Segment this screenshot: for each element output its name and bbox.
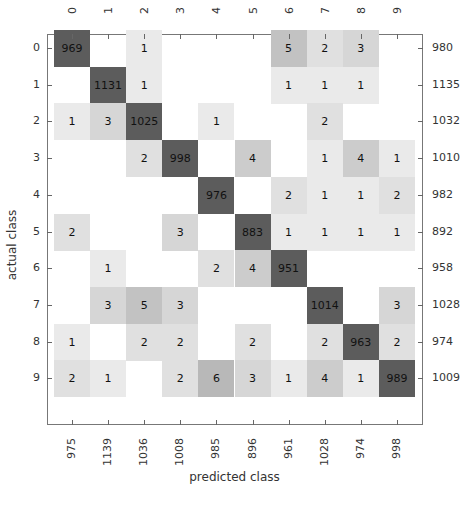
x-axis-title: predicted class [0,470,469,484]
x-tick-label-bottom: 975 [65,438,78,459]
x-tick-label-bottom: 1036 [137,438,150,466]
y-tick-label-right: 892 [432,225,453,238]
matrix-cell: 2 [307,103,343,140]
matrix-cell: 1 [90,360,126,397]
x-tick-bottom [180,420,181,425]
matrix-cell: 3 [90,287,126,324]
y-tick-right [418,158,423,159]
y-tick-left [47,195,52,196]
x-tick-top [253,34,254,39]
y-tick-label-right: 1009 [432,371,460,384]
confusion-matrix-chart: 9691523113111111310251229984141976211223… [0,0,469,505]
matrix-cell: 1 [271,67,307,104]
y-tick-label-right: 1032 [432,114,460,127]
matrix-cell: 976 [198,177,234,214]
matrix-cell: 4 [235,250,271,287]
matrix-cell: 3 [379,287,415,324]
x-tick-label-bottom: 896 [246,438,259,459]
matrix-cell: 3 [90,103,126,140]
matrix-cell: 2 [379,324,415,361]
y-tick-left [47,158,52,159]
x-tick-label-bottom: 1028 [318,438,331,466]
matrix-cell: 2 [379,177,415,214]
x-tick-label-top: 9 [390,1,403,21]
y-tick-label-left: 8 [28,335,40,348]
y-tick-right [418,268,423,269]
matrix-cell: 1 [307,67,343,104]
y-tick-label-left: 6 [28,261,40,274]
x-tick-bottom [397,420,398,425]
y-tick-label-right: 982 [432,188,453,201]
x-tick-bottom [72,420,73,425]
y-tick-right [418,85,423,86]
matrix-cell: 2 [54,360,90,397]
matrix-cell: 2 [126,140,162,177]
y-tick-right [418,378,423,379]
x-tick-top [108,34,109,39]
y-tick-label-left: 9 [28,371,40,384]
matrix-cell: 1025 [126,103,162,140]
matrix-cell: 4 [343,140,379,177]
matrix-cell: 2 [126,324,162,361]
y-tick-label-left: 4 [28,188,40,201]
y-tick-left [47,268,52,269]
x-tick-label-bottom: 985 [209,438,222,459]
x-tick-bottom [361,420,362,425]
matrix-cell: 5 [126,287,162,324]
matrix-cell: 1131 [90,67,126,104]
matrix-cell: 2 [271,177,307,214]
matrix-cell: 2 [162,324,198,361]
y-axis-title: actual class [5,205,19,285]
x-tick-label-bottom: 974 [354,438,367,459]
y-tick-label-right: 1135 [432,78,460,91]
x-tick-bottom [144,420,145,425]
matrix-cell: 1 [54,324,90,361]
x-tick-bottom [108,420,109,425]
y-tick-label-left: 2 [28,114,40,127]
matrix-cell: 1 [343,214,379,251]
matrix-cell: 1 [343,67,379,104]
x-tick-top [361,34,362,39]
matrix-cell: 2 [54,214,90,251]
matrix-cell: 1 [379,140,415,177]
x-tick-label-bottom: 1008 [173,438,186,466]
y-tick-left [47,232,52,233]
matrix-cell: 6 [198,360,234,397]
y-tick-label-right: 1028 [432,298,460,311]
x-tick-bottom [289,420,290,425]
matrix-cell: 1 [307,140,343,177]
y-tick-label-right: 974 [432,335,453,348]
matrix-cell: 1 [54,103,90,140]
matrix-cell: 1 [90,250,126,287]
y-tick-label-right: 980 [432,41,453,54]
y-tick-left [47,85,52,86]
matrix-cell: 963 [343,324,379,361]
y-tick-label-left: 3 [28,151,40,164]
x-tick-top [216,34,217,39]
x-tick-label-top: 0 [66,1,79,21]
x-tick-bottom [253,420,254,425]
x-tick-bottom [325,420,326,425]
matrix-cell: 2 [235,324,271,361]
x-tick-bottom [216,420,217,425]
y-tick-label-left: 0 [28,41,40,54]
y-tick-label-left: 5 [28,225,40,238]
x-tick-label-top: 2 [138,1,151,21]
y-tick-left [47,121,52,122]
matrix-cell: 3 [162,287,198,324]
y-tick-label-left: 7 [28,298,40,311]
x-tick-top [144,34,145,39]
y-tick-label-right: 1010 [432,151,460,164]
x-tick-label-bottom: 998 [390,438,403,459]
matrix-cell: 1 [307,177,343,214]
matrix-cell: 1 [198,103,234,140]
matrix-cell: 998 [162,140,198,177]
matrix-cell: 1 [343,360,379,397]
x-tick-label-top: 1 [102,1,115,21]
y-tick-right [418,305,423,306]
matrix-cell: 1 [379,214,415,251]
x-tick-top [397,34,398,39]
matrix-cell: 3 [235,360,271,397]
matrix-cell: 2 [307,324,343,361]
x-tick-top [72,34,73,39]
